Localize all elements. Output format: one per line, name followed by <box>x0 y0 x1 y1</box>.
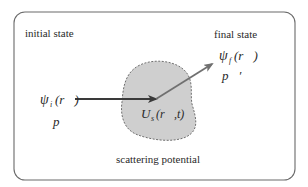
svg-text:s: s <box>151 114 154 123</box>
initial-wavefunction: ψ i (r⃗) <box>40 92 79 109</box>
svg-text:(r⃗,t): (r⃗,t) <box>156 107 184 121</box>
initial-momentum: p⃗ <box>52 114 70 129</box>
svg-text:ψ: ψ <box>219 48 228 63</box>
potential-symbol: U s (r⃗,t) <box>141 106 184 123</box>
svg-text:(r⃗): (r⃗) <box>55 92 79 107</box>
scattering-potential-label: scattering potential <box>116 153 200 165</box>
svg-text:(r⃗): (r⃗) <box>234 48 258 63</box>
svg-text:i: i <box>50 100 52 109</box>
scattering-diagram: initial state ψ i (r⃗) p⃗ final state ψ … <box>0 0 308 187</box>
scattering-potential-region <box>122 61 196 140</box>
final-wavefunction: ψ f (r⃗) <box>219 48 258 65</box>
final-state-label: final state <box>214 28 257 40</box>
final-momentum: p⃗′ <box>221 68 242 83</box>
svg-text:ψ: ψ <box>40 92 49 107</box>
initial-state-label: initial state <box>25 27 74 39</box>
